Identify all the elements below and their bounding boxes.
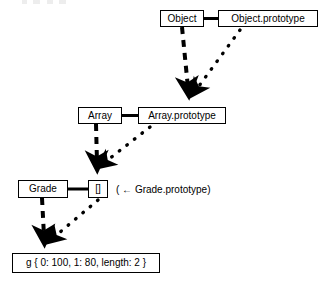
diagram-edges bbox=[0, 0, 322, 290]
node-empty-array-label: [] bbox=[95, 184, 101, 194]
node-instance-label: g { 0: 100, 1: 80, length: 2 } bbox=[26, 258, 146, 268]
diagram-canvas: Object Object.prototype Array Array.prot… bbox=[0, 0, 322, 290]
annotation-grade-prototype: ( ← Grade.prototype) bbox=[116, 185, 210, 195]
node-instance[interactable]: g { 0: 100, 1: 80, length: 2 } bbox=[12, 253, 160, 273]
edge-empty-array-to-instance bbox=[53, 200, 98, 238]
edge-array-prototype-to-empty-array bbox=[104, 127, 150, 163]
node-object-prototype-label: Object.prototype bbox=[231, 14, 304, 24]
node-grade-label: Grade bbox=[29, 184, 57, 194]
scan-artifact bbox=[22, 0, 66, 4]
node-object-prototype[interactable]: Object.prototype bbox=[218, 10, 318, 27]
node-empty-array[interactable]: [] bbox=[88, 180, 108, 198]
node-array-prototype-label: Array.prototype bbox=[148, 111, 216, 121]
node-object-label: Object bbox=[168, 14, 197, 24]
edge-grade-to-instance bbox=[42, 198, 44, 236]
node-object[interactable]: Object bbox=[160, 10, 204, 27]
edge-object-prototype-to-array-prototype bbox=[196, 30, 240, 90]
edge-object-to-array-prototype bbox=[182, 27, 188, 88]
node-array[interactable]: Array bbox=[78, 107, 122, 124]
annotation-grade-prototype-label: ( ← Grade.prototype) bbox=[116, 184, 210, 195]
node-grade[interactable]: Grade bbox=[18, 180, 68, 198]
edge-array-to-empty-array bbox=[96, 124, 97, 162]
node-array-label: Array bbox=[88, 111, 112, 121]
node-array-prototype[interactable]: Array.prototype bbox=[138, 107, 226, 124]
